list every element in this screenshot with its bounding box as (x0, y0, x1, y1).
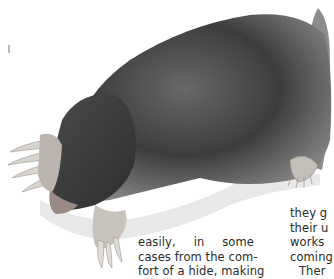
text-line: they g (290, 206, 334, 221)
page-margin-mark (8, 45, 10, 53)
text-line: fort of a hide, making (138, 264, 254, 279)
text-line: Ther (290, 264, 334, 279)
text-line: their u (290, 221, 334, 236)
text-line: easily, in some (138, 235, 254, 250)
text-column-right: they g their u works coming Ther (290, 206, 334, 279)
document-page: easily, in some cases from the com- fort… (0, 0, 334, 279)
text-column-left: easily, in some cases from the com- fort… (138, 235, 254, 279)
text-line: coming (290, 250, 334, 265)
text-line: works (290, 235, 334, 250)
text-line: cases from the com- (138, 250, 254, 265)
